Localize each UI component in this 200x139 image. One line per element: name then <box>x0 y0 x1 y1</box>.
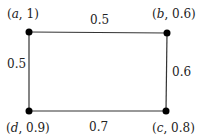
edge-weight-b-c: 0.6 <box>172 66 191 78</box>
node-var-c: c <box>157 121 164 135</box>
node-val-c: 0.8 <box>171 121 190 135</box>
node-c <box>163 108 170 115</box>
edge-b-c <box>166 33 167 111</box>
node-label-b: (b, 0.6) <box>152 8 196 20</box>
edge-weight-a-b: 0.5 <box>90 14 109 26</box>
edge-a-b <box>29 32 167 33</box>
node-val-b: 0.6 <box>172 7 191 21</box>
node-a <box>26 29 33 36</box>
edge-weight-c-d: 0.7 <box>89 121 108 133</box>
node-label-d: (d, 0.9) <box>6 122 50 134</box>
node-var-d: d <box>11 121 19 135</box>
node-var-a: a <box>12 7 19 21</box>
node-b <box>164 30 171 37</box>
node-var-b: b <box>157 7 165 21</box>
node-label-c: (c, 0.8) <box>152 122 195 134</box>
node-label-a: (a, 1) <box>7 8 39 20</box>
node-val-a: 1 <box>26 7 34 21</box>
node-val-d: 0.9 <box>26 121 45 135</box>
edge-weight-d-a: 0.5 <box>7 58 26 70</box>
node-d <box>26 108 33 115</box>
